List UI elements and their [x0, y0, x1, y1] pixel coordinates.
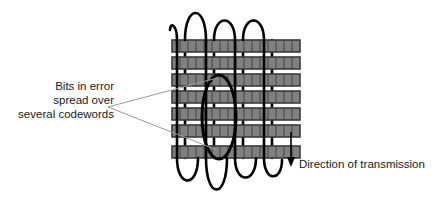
coil-top-arc-1 [185, 13, 206, 40]
error-caption-line-1: Bits in error [8, 79, 114, 93]
error-caption-line-2: spread over [8, 93, 114, 107]
coil-top-arcs [170, 13, 264, 40]
direction-caption: Direction of transmission [299, 157, 425, 171]
coil-top-arc-2 [214, 21, 235, 41]
coil-bottom-arcs [177, 158, 282, 190]
coil-bottom-arc-1 [177, 158, 198, 181]
error-caption: Bits in error spread over several codewo… [8, 79, 114, 121]
coil-top-arc-3 [243, 21, 264, 41]
coil-lead-in [170, 25, 177, 40]
coil-bottom-arc-4 [264, 158, 282, 176]
error-caption-line-3: several codewords [8, 107, 114, 121]
coil-bottom-arc-3 [235, 158, 256, 178]
coil-bottom-arc-2 [206, 158, 227, 190]
diagram-canvas: Bits in error spread over several codewo… [0, 0, 436, 202]
